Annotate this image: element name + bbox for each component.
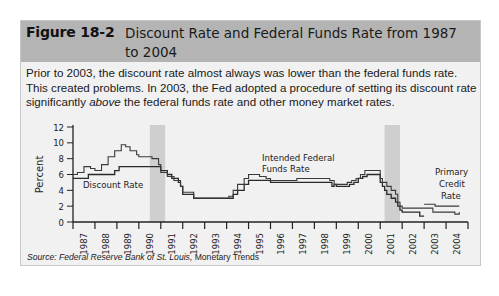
annotation-primary-credit-rate: Primary bbox=[435, 167, 468, 177]
x-tick-label: 1990 bbox=[145, 233, 155, 255]
x-tick-label: 1994 bbox=[233, 233, 243, 255]
y-axis-label: Percent bbox=[34, 156, 45, 194]
x-tick-label: 1996 bbox=[276, 233, 286, 255]
rate-chart: 024681012Percent198719881989199019911992… bbox=[0, 0, 499, 296]
x-tick-label: 1991 bbox=[167, 233, 177, 255]
x-tick-label: 1998 bbox=[320, 233, 330, 255]
x-tick-label: 1997 bbox=[298, 233, 308, 255]
y-tick-label: 8 bbox=[59, 154, 64, 164]
y-tick-label: 0 bbox=[59, 218, 64, 228]
annotation-intended-federal-funds-rate-line2: Funds Rate bbox=[262, 164, 310, 174]
x-tick-label: 2003 bbox=[430, 233, 440, 255]
y-tick-label: 4 bbox=[59, 186, 64, 196]
x-tick-label: 1999 bbox=[342, 233, 352, 255]
annotation-intended-federal-funds-rate: Intended Federal bbox=[262, 153, 335, 163]
y-tick-label: 6 bbox=[59, 170, 64, 180]
x-tick-label: 2001 bbox=[386, 233, 396, 255]
y-tick-label: 2 bbox=[59, 202, 64, 212]
x-tick-label: 2002 bbox=[408, 233, 418, 255]
annotation-discount-rate: Discount Rate bbox=[83, 180, 143, 190]
x-tick-label: 1988 bbox=[101, 233, 111, 255]
x-tick-label: 1993 bbox=[211, 233, 221, 255]
annotation-primary-credit-rate-line3: Rate bbox=[441, 191, 461, 201]
series-primary-credit-rate bbox=[424, 204, 459, 206]
x-tick-label: 2004 bbox=[452, 233, 462, 255]
y-tick-label: 10 bbox=[53, 138, 64, 148]
x-tick-label: 1989 bbox=[123, 233, 133, 255]
recession-band bbox=[385, 125, 400, 222]
x-tick-label: 1995 bbox=[255, 233, 265, 255]
x-tick-label: 2000 bbox=[364, 233, 374, 255]
x-tick-label: 1987 bbox=[79, 233, 89, 255]
annotation-primary-credit-rate-line2: Credit bbox=[439, 179, 465, 189]
y-tick-label: 12 bbox=[53, 123, 64, 133]
x-tick-label: 1992 bbox=[189, 233, 199, 255]
recession-band bbox=[150, 125, 165, 222]
